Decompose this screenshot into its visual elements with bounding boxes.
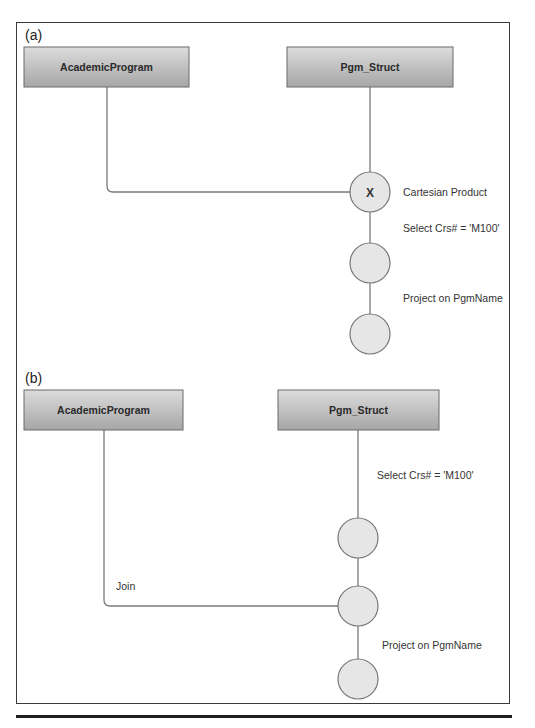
panel-b: (b) AcademicProgram Pgm_Struct Select Cr… [24,370,482,699]
panel-b-label: (b) [25,370,42,386]
panel-a-label: (a) [25,27,42,43]
edge-label-select: Select Crs# = 'M100' [403,222,500,234]
edge-academicprogram-to-join [104,430,338,606]
edge-label-join: Join [116,580,135,592]
edge-label-project: Project on PgmName [403,292,503,304]
op-node-select[interactable] [350,243,390,283]
op-node-select[interactable] [338,518,378,558]
op-node-project[interactable] [350,314,390,354]
table-node-label: AcademicProgram [57,404,150,416]
edge-label-project: Project on PgmName [382,639,482,651]
table-node-academicprogram[interactable]: AcademicProgram [24,47,189,87]
op-node-cartesian-product[interactable]: X [350,172,390,212]
table-node-academicprogram[interactable]: AcademicProgram [24,390,183,430]
op-node-project[interactable] [338,659,378,699]
panel-a: (a) AcademicProgram Pgm_Struct X Cartesi… [24,27,503,354]
query-tree-diagram: (a) AcademicProgram Pgm_Struct X Cartesi… [0,0,535,728]
edge-label-select: Select Crs# = 'M100' [377,469,474,481]
table-node-label: Pgm_Struct [341,61,400,73]
op-node-join[interactable] [338,586,378,626]
cross-product-icon: X [366,186,374,200]
table-node-pgm-struct[interactable]: Pgm_Struct [278,390,439,430]
table-node-pgm-struct[interactable]: Pgm_Struct [287,47,453,87]
op-label-cartesian-product: Cartesian Product [403,186,487,198]
table-node-label: AcademicProgram [60,61,153,73]
table-node-label: Pgm_Struct [329,404,388,416]
edge-academicprogram-to-product [107,87,350,192]
